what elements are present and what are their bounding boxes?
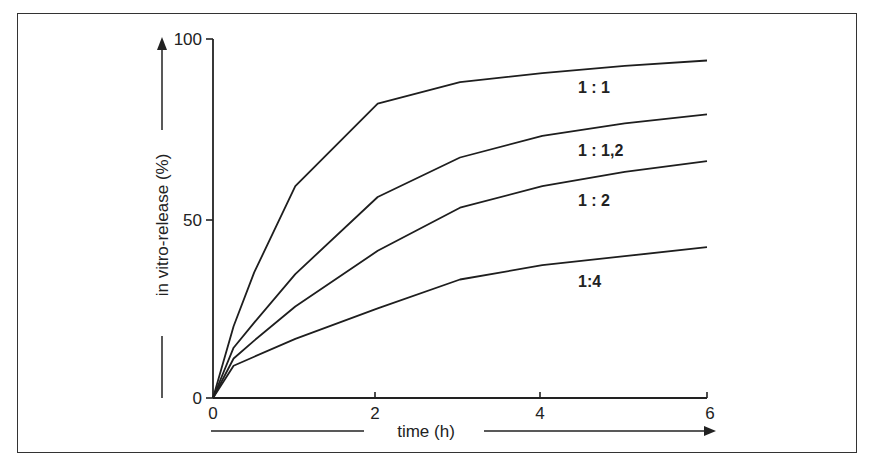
release-chart: 100 50 0 0 2 4 6 time (h) in vitro-relea… [0, 0, 869, 467]
series-label-1-1: 1 : 1 [578, 79, 610, 96]
series-label-1-1-2: 1 : 1,2 [578, 142, 623, 159]
x-axis-title: time (h) [397, 422, 455, 441]
x-tick-2: 2 [370, 404, 379, 423]
y-arrow-icon [157, 37, 167, 50]
series-line-1-1 [213, 61, 707, 399]
y-axis-title-group: in vitro-release (%) [153, 37, 172, 398]
y-axis: 100 50 0 [174, 30, 213, 408]
x-tick-4: 4 [535, 404, 544, 423]
y-tick-50: 50 [183, 211, 202, 230]
x-tick-0: 0 [208, 404, 217, 423]
y-tick-100: 100 [174, 30, 202, 49]
series-line-1-4 [213, 247, 707, 398]
x-tick-6: 6 [705, 404, 714, 423]
series-layer [213, 61, 707, 399]
series-label-1-2: 1 : 2 [578, 192, 610, 209]
x-axis-title-group: time (h) [211, 422, 716, 441]
y-axis-title: in vitro-release (%) [153, 154, 172, 297]
x-axis: 0 2 4 6 [208, 392, 714, 423]
series-label-1-4: 1:4 [578, 273, 601, 290]
y-tick-0: 0 [193, 389, 202, 408]
x-arrow-icon [704, 426, 716, 436]
